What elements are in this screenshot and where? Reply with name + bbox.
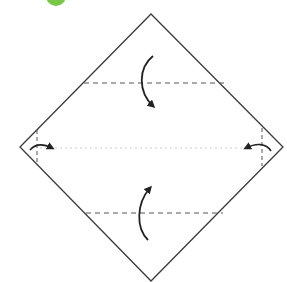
fold-left-in-arrow-icon bbox=[30, 145, 52, 150]
fold-top-down-arrow-icon bbox=[142, 56, 153, 106]
diagram-canvas bbox=[0, 0, 287, 282]
fold-bottom-up-arrow-icon bbox=[139, 188, 150, 240]
origami-diagram bbox=[0, 0, 287, 282]
fold-right-in-arrow-icon bbox=[246, 145, 271, 151]
